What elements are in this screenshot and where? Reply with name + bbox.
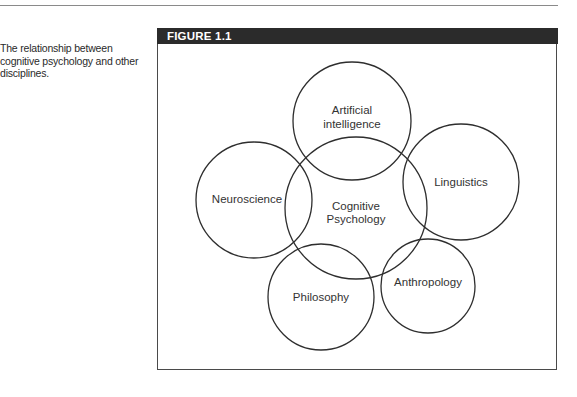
circle-label: Anthropology: [394, 276, 462, 288]
circle-label: Neuroscience: [212, 193, 282, 205]
venn-diagram: Artificial intelligence Linguistics Anth…: [0, 0, 577, 397]
circle-label: Psychology: [327, 213, 386, 225]
circle-label: Philosophy: [293, 291, 350, 303]
circle-label: Artificial: [332, 104, 372, 116]
circle-label: intelligence: [323, 118, 381, 130]
circle-anthropology: Anthropology: [381, 239, 475, 333]
circle-linguistics: Linguistics: [403, 124, 519, 240]
circle-philosophy: Philosophy: [268, 244, 374, 350]
circle-label: Cognitive: [332, 200, 380, 212]
circle-neuroscience: Neuroscience: [196, 142, 312, 258]
circle-label: Linguistics: [434, 176, 488, 188]
circle-artificial-intelligence: Artificial intelligence: [293, 62, 411, 180]
